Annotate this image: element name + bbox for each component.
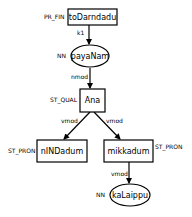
edge-label: vmod xyxy=(61,117,78,124)
edge-nmod: nmod xyxy=(71,68,90,88)
edge-label: nmod xyxy=(71,73,88,80)
edge-label: vmod xyxy=(111,170,128,177)
edge-vmod-left: vmod xyxy=(61,112,90,139)
node-payaNam: payaNam NN xyxy=(57,45,109,67)
node-tag: ST_QUAL xyxy=(50,96,78,104)
node-tag: ST_PRON xyxy=(155,143,182,151)
node-tag: ST_PRON xyxy=(8,147,35,155)
node-mikkadum: mikkadum ST_PRON xyxy=(104,140,182,162)
node-tag: NN xyxy=(96,191,105,198)
node-label: payaNam xyxy=(71,52,110,61)
node-kaLaippu: kaLaippu NN xyxy=(96,184,150,206)
edge-vmod-right: vmod xyxy=(94,112,123,139)
edge-k1: k1 xyxy=(77,25,89,44)
edge-label: k1 xyxy=(77,29,84,36)
node-toDarndadu: toDarndadu PR_FIN xyxy=(44,9,117,25)
node-label: toDarndadu xyxy=(69,13,116,22)
node-Ana: Ana ST_QUAL xyxy=(50,89,105,112)
node-label: Ana xyxy=(85,96,101,105)
node-nINDadum: nINDadum ST_PRON xyxy=(8,140,87,162)
node-tag: PR_FIN xyxy=(44,13,65,21)
node-tag: NN xyxy=(57,52,66,59)
node-label: mikkadum xyxy=(108,147,150,156)
node-label: nINDadum xyxy=(41,147,84,156)
edge-label: vmod xyxy=(106,117,123,124)
dependency-tree-diagram: k1 nmod vmod vmod vmod toDarndadu PR_FIN… xyxy=(0,0,192,217)
node-label: kaLaippu xyxy=(112,191,148,200)
edge-vmod-down: vmod xyxy=(111,162,129,183)
